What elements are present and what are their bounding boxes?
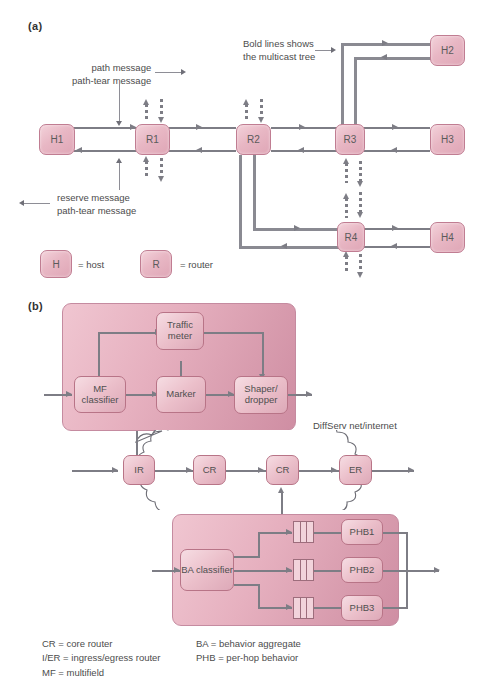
mf-classifier-line1: MF [93,383,107,394]
stub-r1-bottom-down-arrow [158,176,164,182]
marker-box[interactable]: Marker [156,376,206,413]
annotation-forward: path message path-tear message [72,62,151,88]
link-meter-shaper-horizontal [204,332,264,334]
annotation-reverse-arrow-head [19,200,24,206]
stub-r1-top-down-stem [160,99,163,117]
key-router-symbol-box: R [140,250,172,278]
phb3-box[interactable]: PHB3 [341,595,383,621]
link-phb1-merge [383,532,408,534]
arrow-ba-queue2 [286,567,292,573]
router-er-label: ER [349,465,362,476]
node-r3[interactable]: R3 [335,124,365,155]
arrow-r4-r2-reverse [281,243,287,249]
traffic-meter-line2: meter [168,330,192,341]
stub-r4-top-down-arrow [357,212,363,218]
node-h3[interactable]: H3 [430,124,465,155]
arrow-r3-r2-reverse [298,147,304,153]
queue-2 [293,559,314,581]
phb1-box[interactable]: PHB1 [341,519,383,545]
stub-r1-top-up-stem [145,104,148,122]
stub-r4-top-up-arrow [343,193,349,199]
node-r2-label: R2 [247,134,260,145]
ba-classifier-line2: classifier [196,564,233,575]
arrow-r4-h4-forward [392,225,398,231]
figure-root: (a) [0,0,483,694]
link-mf-meter-horizontal [98,332,160,334]
annotation-reverse-arrow-line [24,203,50,204]
key-host-symbol-box: H [40,250,72,278]
annotation-forward-line2: path-tear message [72,75,151,88]
link-ba-queue3-horizontal-a [234,584,260,586]
link-ba-queue1-vertical [258,532,260,557]
arrow-cr1-cr2 [258,467,264,473]
multicast-link-r3-h2-up-vertical [341,43,344,132]
link-meter-shaper-vertical [262,332,264,376]
stub-r4-bottom-down-stem [359,254,362,272]
arrow-h2-r3-reverse [381,54,387,60]
mf-classifier-box[interactable]: MF classifier [74,376,126,413]
phb2-box[interactable]: PHB2 [341,557,383,583]
phb3-label: PHB3 [350,603,375,614]
link-r3-r2-reverse [271,150,337,152]
traffic-meter-line1: Traffic [167,319,193,330]
annotation-forward-pointer-line [119,84,120,122]
core-router-output-arrow [434,567,440,573]
multicast-link-h2-r3-down-vertical [354,57,357,132]
link-queue2-phb2 [314,570,342,572]
link-queue3-phb3 [314,607,342,609]
phb2-label: PHB2 [350,565,375,576]
marker-label: Marker [166,389,196,400]
node-h2[interactable]: H2 [430,35,465,66]
annotation-forward-line1: path message [72,62,151,75]
stub-r4-top-down-stem [359,192,362,212]
stub-r3-down-arrow [357,181,363,187]
router-cr-2[interactable]: CR [266,455,299,485]
node-r1-label: R1 [146,134,159,145]
stub-r2-top-up-stem [245,104,248,122]
stub-r1-bottom-down-stem [160,158,163,176]
stub-r2-top-down-arrow [258,117,264,123]
node-r3-label: R3 [344,134,357,145]
edge-router-input-arrow [66,391,72,397]
shaper-dropper-box[interactable]: Shaper/ dropper [234,376,288,414]
node-r2[interactable]: R2 [236,124,271,155]
stub-r4-bottom-down-arrow [357,272,363,278]
link-h3-r3-reverse [364,150,430,152]
arrow-r2-r4-forward [294,225,300,231]
annotation-reverse-pointer-line [119,163,120,190]
router-cr-1[interactable]: CR [193,455,226,485]
router-er[interactable]: ER [339,455,372,485]
link-h4-r4-reverse [364,246,430,248]
multicast-link-r2-r4-vertical-outer [239,155,242,249]
arrow-r3-h2-forward [382,40,388,46]
link-h1-r1-forward [74,127,136,129]
legend-left: CR = core router I/ER = ingress/egress r… [42,637,161,680]
node-h2-label: H2 [441,45,454,56]
queue-1 [293,521,314,543]
annotation-multicast-line2: the multicast tree [243,51,315,64]
node-r4[interactable]: R4 [337,222,365,252]
stub-r4-top-up-stem [345,198,348,218]
node-h1[interactable]: H1 [39,124,75,155]
node-h4[interactable]: H4 [430,222,465,253]
key-router-symbol: R [152,259,159,270]
arrow-r3-h3-forward [392,124,398,130]
node-r1[interactable]: R1 [135,124,170,155]
arrow-h4-r4-reverse [391,243,397,249]
router-cr-2-label: CR [276,465,290,476]
traffic-meter-box[interactable]: Traffic meter [156,312,204,350]
cloud-output-arrow [408,467,414,473]
shaper-line2: dropper [245,394,278,405]
router-cr-1-label: CR [203,465,217,476]
arrow-core-router-to-cr2 [278,487,284,493]
queue-3 [293,597,314,619]
arrow-r2-r3-forward [299,124,305,130]
key-host-text: = host [78,259,104,272]
ba-classifier-box[interactable]: BA classifier [180,549,234,591]
link-ba-queue1-horizontal-a [234,556,260,558]
arrow-r1-h1-reverse [76,147,82,153]
annotation-reverse-line1: reserve message [57,192,136,205]
stub-r1-bottom-up-arrow [143,156,149,162]
stub-r3-up-stem [345,163,348,183]
router-ir[interactable]: IR [123,455,155,485]
